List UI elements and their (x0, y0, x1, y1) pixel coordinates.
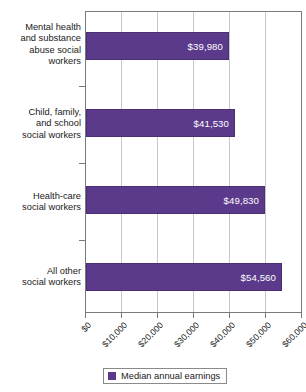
y-axis-tick (79, 163, 85, 164)
category-label-health-care: Health-care social workers (0, 191, 81, 214)
bar-mental-health[interactable]: $39,980 (86, 32, 229, 60)
x-axis-tick-50000 (265, 313, 266, 318)
bar-all-other[interactable]: $54,560 (86, 263, 282, 291)
category-label-line: and school (0, 118, 81, 129)
x-axis-label-60000: $60,000 (234, 320, 306, 392)
category-label-line: Mental health (0, 22, 81, 33)
category-axis-labels: Mental health and substance abuse social… (0, 11, 81, 313)
bar-health-care[interactable]: $49,830 (86, 186, 265, 214)
bar-series: $39,980 $41,530 $49,830 $54,560 (86, 12, 301, 312)
y-axis-tick (79, 240, 85, 241)
category-label-line: Child, family, (0, 107, 81, 118)
category-label-mental-health: Mental health and substance abuse social… (0, 22, 81, 68)
category-label-child-family-school: Child, family, and school social workers (0, 107, 81, 141)
bar-value-label: $54,560 (241, 272, 281, 283)
bar-chart: Mental health and substance abuse social… (0, 0, 306, 392)
legend-label: Median annual earnings (121, 371, 220, 381)
category-label-line: social workers (0, 130, 81, 141)
x-axis-tick-40000 (229, 313, 230, 318)
category-label-line: All other (0, 266, 81, 277)
category-label-line: abuse social (0, 45, 81, 56)
x-axis-tick-60000 (301, 313, 302, 318)
bar-child-family-school[interactable]: $41,530 (86, 109, 235, 137)
x-axis-tick-20000 (157, 313, 158, 318)
category-label-line: social workers (0, 202, 81, 213)
category-label-line: social workers (0, 277, 81, 288)
x-axis-tick-30000 (193, 313, 194, 318)
x-axis-tick-0 (85, 313, 86, 318)
x-axis-tick-10000 (121, 313, 122, 318)
legend-swatch-icon (108, 372, 116, 380)
bar-value-label: $49,830 (224, 195, 264, 206)
bar-value-label: $39,980 (188, 41, 228, 52)
category-label-line: workers (0, 56, 81, 67)
legend: Median annual earnings (103, 368, 227, 384)
category-label-line: Health-care (0, 191, 81, 202)
x-axis-label-0: $0 (18, 320, 93, 392)
category-label-line: and substance (0, 33, 81, 44)
category-label-all-other: All other social workers (0, 266, 81, 289)
y-axis-tick (79, 86, 85, 87)
bar-value-label: $41,530 (194, 118, 234, 129)
